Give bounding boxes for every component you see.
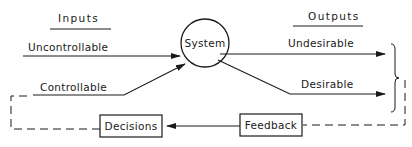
decisions-node: Decisions — [100, 115, 162, 137]
system-node: System — [181, 19, 229, 67]
desirable-output: Desirable — [218, 60, 385, 94]
outputs-brace-icon — [391, 44, 399, 112]
outputs-header-label: Outputs — [308, 10, 360, 22]
decisions-label: Decisions — [105, 120, 158, 132]
system-feedback-diagram: Inputs Outputs System Uncontrollable Con… — [0, 0, 412, 147]
feedback-label: Feedback — [245, 119, 298, 131]
inputs-header-label: Inputs — [58, 12, 99, 24]
controllable-input: Controllable — [33, 64, 185, 95]
controllable-label: Controllable — [40, 81, 107, 93]
uncontrollable-label: Uncontrollable — [28, 41, 108, 53]
feedback-node: Feedback — [240, 114, 302, 136]
outputs-header: Outputs — [293, 10, 363, 26]
decisions-to-controllable-dashed-line — [11, 96, 100, 129]
system-label: System — [185, 37, 226, 49]
uncontrollable-input: Uncontrollable — [23, 41, 180, 56]
undesirable-label: Undesirable — [288, 37, 354, 49]
desirable-label: Desirable — [301, 78, 353, 90]
undesirable-output: Undesirable — [220, 37, 385, 54]
inputs-header: Inputs — [50, 12, 111, 29]
